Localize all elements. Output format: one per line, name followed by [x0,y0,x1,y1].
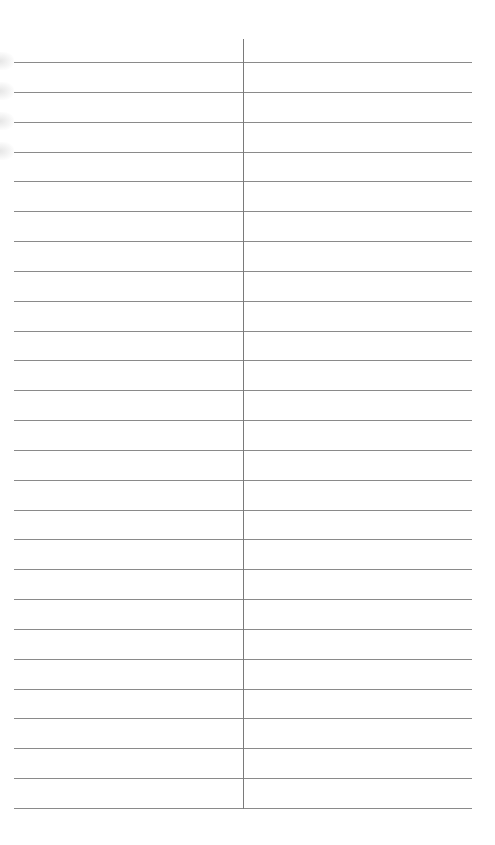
lined-sheet [0,0,495,845]
binding-shadow [0,112,14,130]
binding-shadow [0,142,14,160]
binding-shadow [0,52,14,70]
binding-shadow [0,82,14,100]
column-divider [243,39,244,809]
